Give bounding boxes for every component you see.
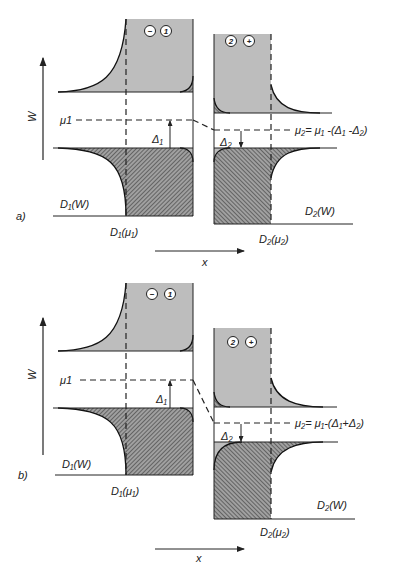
delta1-label: Δ₁ (155, 393, 167, 405)
mu2-formula: μ₂= μ₁ -(Δ₁ -Δ₂) (294, 124, 368, 136)
d1-w-label: D₁(W) (60, 198, 89, 210)
delta2-label: Δ₂ (219, 136, 232, 148)
panel-a: W − 1 μ1 Δ₁ (16, 19, 368, 268)
mu2-formula: μ₂= μ₁-(Δ₁+Δ₂) (294, 417, 364, 429)
delta1-label: Δ₁ (151, 133, 163, 145)
d1-w-label: D₁(W) (62, 458, 91, 470)
electrode1-number-marker: 1 (165, 289, 176, 300)
svg-text:+: + (247, 37, 252, 46)
position-axis-label: x (195, 552, 202, 564)
position-axis-label: x (201, 256, 208, 268)
svg-text:−: − (148, 27, 153, 36)
mu-connector-line (193, 120, 214, 130)
d1-mu-label: D₁(μ₁) (111, 485, 140, 497)
svg-text:1: 1 (168, 290, 173, 299)
energy-band-diagram: W − 1 μ1 Δ₁ (0, 0, 394, 567)
svg-text:1: 1 (164, 27, 169, 36)
panel-tag: b) (18, 469, 28, 481)
electrode2-sign-marker: + (244, 36, 255, 47)
electrode1-sign-marker: − (147, 289, 158, 300)
mu1-label: μ1 (59, 114, 72, 126)
mu-connector-line (193, 380, 214, 423)
electrode2-occupied-band (214, 442, 323, 519)
delta2-label: Δ₂ (220, 430, 233, 442)
mu1-label: μ1 (59, 374, 72, 386)
panel-tag: a) (16, 210, 26, 222)
electrode2-number-marker: 2 (226, 36, 237, 47)
energy-axis-label: W (26, 110, 38, 122)
svg-text:−: − (150, 290, 155, 299)
electrode2-number-marker: 2 (228, 337, 239, 348)
panel-b: W − 1 μ1 Δ₁ (18, 283, 364, 564)
electrode1-sign-marker: − (145, 26, 156, 37)
d2-mu-label: D₂(μ₂) (260, 526, 290, 538)
d2-w-label: D₂(W) (317, 499, 347, 511)
svg-text:2: 2 (230, 338, 236, 347)
svg-text:+: + (249, 338, 254, 347)
d1-mu-label: D₁(μ₁) (110, 226, 139, 238)
electrode1-number-marker: 1 (161, 26, 172, 37)
d2-mu-label: D₂(μ₂) (259, 233, 289, 245)
electrode2-sign-marker: + (246, 337, 257, 348)
svg-text:2: 2 (228, 37, 234, 46)
d2-w-label: D₂(W) (305, 205, 335, 217)
energy-axis-label: W (26, 368, 38, 380)
